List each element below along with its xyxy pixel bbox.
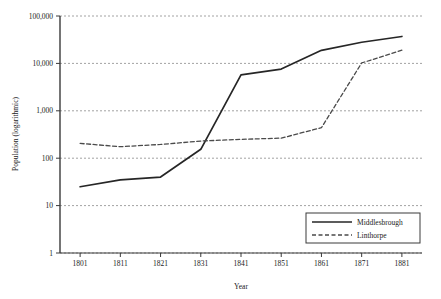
legend-label-linthorpe: Linthorpe <box>357 231 387 240</box>
y-tick-label-10: 10 <box>46 201 54 210</box>
y-tick-label-100: 100 <box>42 154 54 163</box>
x-axis-tick-labels: 180118111821183118411851186118711881 <box>73 259 410 268</box>
x-tick-label-1841: 1841 <box>234 259 249 268</box>
x-tick-label-1801: 1801 <box>73 259 88 268</box>
x-tick-label-1831: 1831 <box>193 259 208 268</box>
y-tick-label-1000: 1,000 <box>36 106 53 115</box>
x-tick-label-1871: 1871 <box>354 259 369 268</box>
y-tick-label-10000: 10,000 <box>32 59 53 68</box>
population-log-chart: 100,000 10,000 1,000 100 10 1 Population… <box>0 0 441 299</box>
x-tick-label-1811: 1811 <box>113 259 128 268</box>
x-tick-label-1861: 1861 <box>314 259 329 268</box>
y-tick-label-1: 1 <box>49 249 53 258</box>
legend-label-middlesbrough: Middlesbrough <box>357 218 403 227</box>
y-tick-label-100000: 100,000 <box>29 12 54 21</box>
chart-background <box>0 0 441 299</box>
legend: Middlesbrough Linthorpe <box>306 213 420 243</box>
x-tick-label-1851: 1851 <box>274 259 289 268</box>
y-axis-title: Population (logarithmic) <box>11 97 20 171</box>
chart-canvas: 100,000 10,000 1,000 100 10 1 Population… <box>0 0 441 299</box>
x-tick-label-1881: 1881 <box>394 259 409 268</box>
x-axis-title: Year <box>234 282 248 291</box>
x-tick-label-1821: 1821 <box>153 259 168 268</box>
